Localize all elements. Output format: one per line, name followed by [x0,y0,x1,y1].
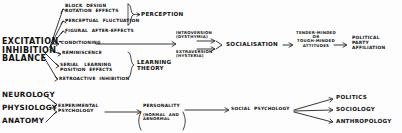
label-experimental-psychology: EXPERIMENTAL PSYCHOLOGY [58,104,99,114]
label-conditioning: CONDITIONING [61,41,101,46]
label-political-party-affiliation: POLITICAL PARTY AFFILIATION [352,36,385,50]
label-politics: POLITICS [336,94,367,100]
label-physiology: PHYSIOLOGY [2,104,57,112]
label-perception-group: PERCEPTION [141,11,184,17]
label-personality: PERSONALITY [143,104,180,109]
label-introversion-dysthymia: INTROVERSION (DYSTHYMIA) [176,31,212,39]
label-anthropology: ANTHROPOLOGY [336,118,392,124]
label-retroactive-inhibition: RETROACTIVE INHIBITION [59,77,129,82]
label-tender-tough-minded-attitudes: TENDER-MINDED OR TOUGH-MINDED ATTITUDES [296,31,336,48]
label-socialisation: SOCIALISATION [226,41,278,47]
label-figural-after-effects: FIGURAL AFTER-EFFECTS [65,29,134,34]
personality-parenthesis [138,110,188,132]
diagram-canvas: EXCITATION- INHIBITION BALANCE BLOCK DES… [0,0,402,133]
label-serial-learning-position-effects: SERIAL LEARNING POSITION EFFECTS [60,63,112,73]
label-neurology: NEUROLOGY [2,91,55,99]
label-sociology: SOCIOLOGY [336,106,375,112]
label-perceptual-fluctuation: PERCEPTUAL FLUCTUATION [65,19,139,24]
label-excitation-inhibition-balance: EXCITATION- INHIBITION BALANCE [2,38,62,64]
label-social-psychology: SOCIAL PSYCHOLOGY [231,107,290,112]
label-extraversion-hysteria: EXTRAVERSION (HYSTERIA) [176,50,213,58]
label-anatomy: ANATOMY [2,117,44,125]
label-block-design-rotation-effects: BLOCK DESIGN ROTATION EFFECTS [65,4,119,14]
label-learning-theory-group: LEARNING THEORY [137,59,171,71]
label-reminiscence: REMINISCENCE [62,51,102,56]
